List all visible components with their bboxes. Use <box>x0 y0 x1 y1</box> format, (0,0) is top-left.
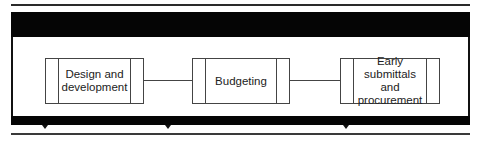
step-label: Budgeting <box>206 59 276 103</box>
connector-line <box>144 80 192 81</box>
header-bar <box>11 12 470 37</box>
process-step-design: Design and development <box>45 58 144 104</box>
top-rule <box>11 4 470 6</box>
step-label: Design and development <box>59 59 130 103</box>
footer-bar <box>11 116 470 125</box>
process-step-budgeting: Budgeting <box>192 58 290 104</box>
box-side-right <box>130 59 143 103</box>
box-side-left <box>46 59 59 103</box>
box-side-right <box>426 59 439 103</box>
box-side-left <box>193 59 206 103</box>
box-side-right <box>276 59 289 103</box>
notch-marker <box>343 125 349 129</box>
step-label: Early submittals and procurement <box>354 59 426 103</box>
notch-marker <box>165 125 171 129</box>
process-step-early-submittals: Early submittals and procurement <box>340 58 440 104</box>
bottom-rule <box>11 133 470 135</box>
box-side-left <box>341 59 354 103</box>
notch-marker <box>42 125 48 129</box>
connector-line <box>290 80 340 81</box>
